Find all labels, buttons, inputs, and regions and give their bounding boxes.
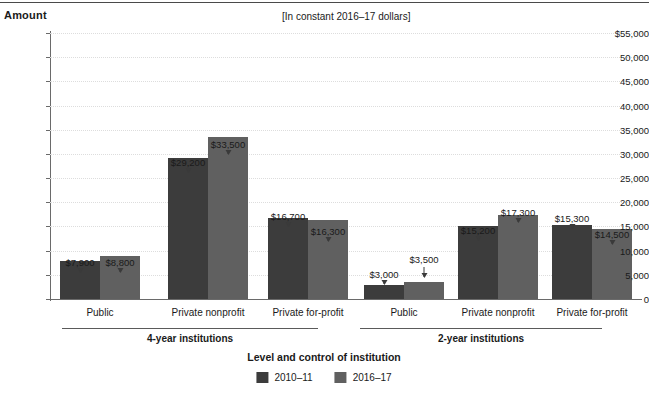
y-axis-tick-mark	[46, 106, 50, 107]
bar	[404, 282, 444, 299]
legend-label: 2010–11	[274, 372, 312, 383]
gridline	[50, 106, 642, 107]
bar-value-label: $16,300	[311, 226, 345, 237]
value-callout-arrow	[188, 170, 189, 172]
bar-value-label: $3,000	[369, 269, 398, 280]
legend-label: 2016–17	[353, 372, 392, 383]
units-note: [In constant 2016–17 dollars]	[282, 11, 410, 22]
value-callout-arrow	[612, 242, 613, 244]
bar-value-label: $8,800	[105, 257, 134, 268]
bar	[552, 225, 592, 299]
value-callout-arrow	[288, 224, 289, 226]
y-axis-tick-label: 45,000	[603, 76, 649, 87]
x-axis-category-label: Private for-profit	[556, 307, 627, 318]
bar-value-label: $15,200	[461, 225, 495, 236]
group-bracket-rule	[62, 328, 318, 329]
y-axis-tick-label: 30,000	[603, 148, 649, 159]
legend-item: 2010–11	[256, 372, 312, 383]
bar-value-label: $3,500	[409, 254, 438, 265]
y-axis-tick-mark	[46, 154, 50, 155]
y-axis-tick-label: 10,000	[603, 245, 649, 256]
bar-value-label: $15,300	[555, 213, 589, 224]
plot-area: $7,900$8,800$29,200$33,500$16,700$16,300…	[50, 33, 642, 299]
legend-item: 2016–17	[335, 372, 392, 383]
y-axis-tick-mark	[46, 178, 50, 179]
value-callout-arrow	[518, 220, 519, 222]
bar-value-label: $29,200	[171, 157, 205, 168]
group-bracket-rule	[360, 328, 602, 329]
y-axis-tick-mark	[46, 299, 50, 300]
value-callout-arrow	[478, 238, 479, 240]
gridline	[50, 178, 642, 179]
bar	[364, 285, 404, 300]
value-callout-arrow	[120, 270, 121, 272]
legend-swatch-icon	[256, 372, 268, 383]
group-label: 4-year institutions	[147, 333, 233, 344]
group-label: 2-year institutions	[438, 333, 524, 344]
y-axis-tick-mark	[46, 130, 50, 131]
bar-value-label: $17,300	[501, 207, 535, 218]
bar	[268, 218, 308, 299]
x-axis-category-label: Private nonprofit	[172, 307, 245, 318]
bar-value-label: $33,500	[211, 139, 245, 150]
value-callout-arrow	[572, 226, 573, 228]
top-divider-rule	[0, 2, 649, 3]
x-axis-category-label: Private nonprofit	[462, 307, 535, 318]
bar	[208, 137, 248, 299]
y-axis-tick-label: 20,000	[603, 197, 649, 208]
gridline	[50, 57, 642, 58]
legend-swatch-icon	[335, 372, 347, 383]
x-axis-category-label: Public	[86, 307, 113, 318]
y-axis-tick-label: 35,000	[603, 124, 649, 135]
value-callout-arrow	[80, 270, 81, 272]
x-axis-category-label: Public	[390, 307, 417, 318]
x-axis-line	[50, 299, 642, 300]
gridline	[50, 81, 642, 82]
y-axis-tick-label: 50,000	[603, 52, 649, 63]
y-axis-tick-mark	[46, 226, 50, 227]
y-axis-tick-label: 0	[603, 294, 649, 305]
bar-value-label: $16,700	[271, 211, 305, 222]
bar	[498, 215, 538, 299]
y-axis-tick-mark	[46, 202, 50, 203]
gridline	[50, 202, 642, 203]
chart-figure: Amount [In constant 2016–17 dollars] $7,…	[0, 0, 649, 395]
x-axis-category-label: Private for-profit	[272, 307, 343, 318]
y-axis-tick-label: 40,000	[603, 100, 649, 111]
gridline	[50, 154, 642, 155]
y-axis-title: Amount	[4, 9, 47, 21]
value-callout-arrow	[228, 152, 229, 154]
y-axis-tick-mark	[46, 275, 50, 276]
y-axis-tick-label: $55,000	[603, 28, 649, 39]
value-callout-arrow	[384, 282, 385, 284]
bar-value-label: $7,900	[65, 257, 94, 268]
value-callout-arrow	[424, 267, 425, 277]
gridline	[50, 33, 642, 34]
y-axis-tick-label: 15,000	[603, 221, 649, 232]
y-axis-tick-mark	[46, 251, 50, 252]
x-axis-title: Level and control of institution	[247, 351, 400, 363]
gridline	[50, 130, 642, 131]
y-axis-tick-mark	[46, 81, 50, 82]
chart-legend: 2010–112016–17	[256, 372, 391, 383]
y-axis-tick-mark	[46, 33, 50, 34]
bar	[168, 158, 208, 299]
y-axis-tick-label: 5,000	[603, 269, 649, 280]
value-callout-arrow	[328, 239, 329, 241]
y-axis-tick-mark	[46, 57, 50, 58]
y-axis-tick-label: 25,000	[603, 173, 649, 184]
